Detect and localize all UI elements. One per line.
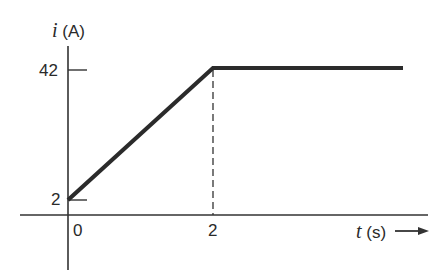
- y-axis-variable: i: [52, 19, 58, 41]
- x-axis-variable: t: [356, 220, 362, 242]
- y-tick-label-2: 2: [51, 191, 60, 208]
- current-waveform: [68, 68, 403, 200]
- t-axis-arrow-head: [418, 227, 429, 235]
- x-tick-label-2: 2: [208, 222, 217, 239]
- x-tick-label-0: 0: [73, 222, 82, 239]
- y-axis-label: i (A): [52, 20, 85, 40]
- x-axis-label: t (s): [356, 221, 386, 241]
- y-tick-label-42: 42: [39, 62, 58, 79]
- x-axis-unit: (s): [366, 223, 386, 242]
- y-axis-unit: (A): [62, 22, 85, 41]
